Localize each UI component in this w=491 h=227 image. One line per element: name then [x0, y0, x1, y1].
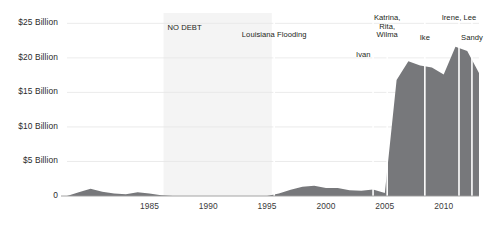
annotation-line: Ivan: [356, 51, 371, 60]
x-axis-tick-2005: 2005: [360, 201, 410, 211]
annotation-line: Irene, Lee: [414, 14, 491, 23]
annotation-sandy: Sandy: [427, 34, 491, 43]
y-axis-tick-25: $25 Billion: [18, 17, 58, 27]
y-axis-tick-0: 0: [53, 190, 58, 200]
x-axis-tick-2010: 2010: [419, 201, 469, 211]
annotation-ivan: Ivan: [356, 51, 371, 60]
annotation-line: Louisiana Flooding: [229, 31, 319, 40]
y-axis-tick-10: $10 Billion: [18, 121, 58, 131]
flood-insurance-debt-chart: $25 Billion$20 Billion$15 Billion$10 Bil…: [0, 0, 491, 227]
x-axis-tick-1990: 1990: [183, 201, 233, 211]
x-axis-tick-2000: 2000: [301, 201, 351, 211]
annotation-irene-lee: Irene, Lee: [414, 14, 491, 23]
annotation-louisiana-flooding: Louisiana Flooding: [229, 31, 319, 40]
no-debt-band: [164, 13, 272, 196]
area-series-nfip-debt: [67, 47, 479, 196]
x-axis-tick-1995: 1995: [242, 201, 292, 211]
y-axis-tick-20: $20 Billion: [18, 52, 58, 62]
band-label-no-debt-band: NO DEBT: [168, 24, 202, 33]
y-axis-tick-15: $15 Billion: [18, 86, 58, 96]
y-axis-tick-5: $5 Billion: [23, 155, 58, 165]
annotation-line: Sandy: [427, 34, 491, 43]
x-axis-tick-1985: 1985: [124, 201, 174, 211]
